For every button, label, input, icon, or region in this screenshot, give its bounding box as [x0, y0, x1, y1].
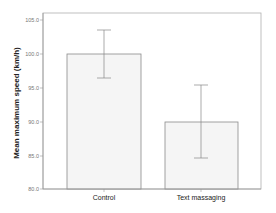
svg-text:100.0: 100.0 — [25, 51, 39, 57]
svg-text:90.0: 90.0 — [28, 119, 39, 125]
y-tick: 100.0 — [25, 51, 43, 57]
y-tick: 95.0 — [28, 85, 43, 91]
bar-text-massaging — [165, 122, 238, 189]
bar-chart: 105.0 100.0 95.0 90.0 85.0 80.0 Mean max… — [0, 0, 276, 213]
y-axis: 105.0 100.0 95.0 90.0 85.0 80.0 — [25, 13, 43, 192]
svg-text:80.0: 80.0 — [28, 186, 39, 192]
x-label-control: Control — [93, 194, 116, 201]
x-label-text-massaging: Text massaging — [177, 194, 226, 202]
y-tick: 90.0 — [28, 119, 43, 125]
y-axis-title: Mean maximum speed (km/h) — [12, 47, 21, 159]
x-axis: Control Text massaging — [43, 189, 261, 202]
y-tick: 80.0 — [28, 186, 43, 192]
svg-text:95.0: 95.0 — [28, 85, 39, 91]
svg-text:105.0: 105.0 — [25, 17, 39, 23]
svg-text:85.0: 85.0 — [28, 153, 39, 159]
y-tick: 105.0 — [25, 17, 43, 23]
y-tick: 85.0 — [28, 153, 43, 159]
